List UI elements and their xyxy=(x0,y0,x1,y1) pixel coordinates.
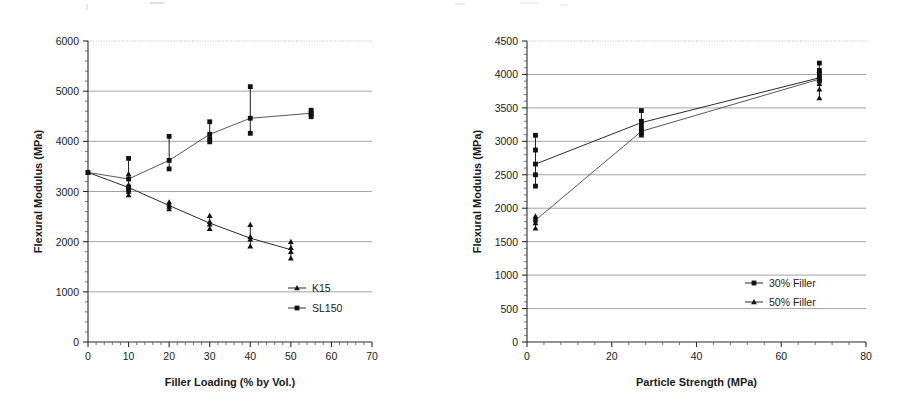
data-point-1-14 xyxy=(248,131,253,136)
data-point-1-18 xyxy=(309,114,314,119)
labels-group: 0204060800500100015002000250030003500400… xyxy=(471,35,872,388)
x-tick-label-80: 80 xyxy=(860,350,872,362)
y-axis-title: Flexural Modulus (MPa) xyxy=(471,129,483,253)
data-point-0-3 xyxy=(533,172,538,177)
y-tick-label-0: 0 xyxy=(73,336,79,348)
x-tick-label-50: 50 xyxy=(285,350,297,362)
x-axis-title: Particle Strength (MPa) xyxy=(636,376,757,388)
data-point-0-5 xyxy=(639,108,644,113)
y-axis-title: Flexural Modulus (MPa) xyxy=(32,129,44,253)
data-point-0-2 xyxy=(533,162,538,167)
legend-label-0: 30% Filler xyxy=(769,277,816,289)
data-point-1-7 xyxy=(167,167,172,172)
data-point-1-8 xyxy=(207,119,212,124)
data-point-0-10 xyxy=(207,213,213,218)
y-tick-label-4000: 4000 xyxy=(495,68,519,80)
x-tick-label-0: 0 xyxy=(524,350,530,362)
y-tick-label-2000: 2000 xyxy=(56,236,80,248)
y-tick-label-3000: 3000 xyxy=(56,186,80,198)
y-tick-label-500: 500 xyxy=(500,303,518,315)
data-point-1-12 xyxy=(248,84,253,89)
y-tick-label-1000: 1000 xyxy=(495,269,519,281)
data-point-0-17 xyxy=(247,243,253,248)
y-tick-label-0: 0 xyxy=(512,336,518,348)
data-point-0-10 xyxy=(817,61,822,66)
gridlines-group xyxy=(88,41,372,292)
y-tick-label-6000: 6000 xyxy=(56,35,80,47)
legend-label-0: K15 xyxy=(312,282,331,294)
legend-marker-square-icon xyxy=(752,281,757,286)
data-group xyxy=(533,61,823,231)
trend-line-0 xyxy=(88,172,291,249)
y-tick-label-4500: 4500 xyxy=(495,35,519,47)
x-tick-label-60: 60 xyxy=(775,350,787,362)
data-point-1-6 xyxy=(167,158,172,163)
chart-panel-right: 0204060800500100015002000250030003500400… xyxy=(450,0,900,414)
legend-label-1: 50% Filler xyxy=(769,296,816,308)
series-k15 xyxy=(85,170,294,261)
data-point-1-1 xyxy=(126,156,131,161)
series-sl150 xyxy=(86,84,314,192)
data-point-0-1 xyxy=(533,148,538,153)
figure-two-panel-charts: 0102030405060700100020003000400050006000… xyxy=(0,0,900,414)
data-point-1-4 xyxy=(533,225,539,230)
legend-label-1: SL150 xyxy=(312,302,343,314)
y-tick-label-1500: 1500 xyxy=(495,236,519,248)
data-point-1-3 xyxy=(533,220,539,225)
data-point-1-13 xyxy=(816,86,822,91)
x-tick-label-20: 20 xyxy=(163,350,175,362)
chart-panel-left: 0102030405060700100020003000400050006000… xyxy=(0,0,450,414)
trend-line-1 xyxy=(88,113,311,179)
data-point-1-2 xyxy=(126,177,131,182)
x-tick-label-0: 0 xyxy=(85,350,91,362)
y-tick-label-4000: 4000 xyxy=(56,135,80,147)
x-tick-label-10: 10 xyxy=(123,350,135,362)
data-point-1-4 xyxy=(126,187,131,192)
x-tick-label-40: 40 xyxy=(691,350,703,362)
labels-group: 0102030405060700100020003000400050006000… xyxy=(32,35,378,388)
legend-marker-square-icon xyxy=(295,306,300,311)
data-point-0-0 xyxy=(533,133,538,138)
x-tick-label-70: 70 xyxy=(366,350,378,362)
data-point-0-13 xyxy=(207,226,213,231)
x-axis-title: Filler Loading (% by Vol.) xyxy=(165,376,296,388)
data-point-0-14 xyxy=(247,222,253,227)
x-tick-label-60: 60 xyxy=(326,350,338,362)
data-point-0-4 xyxy=(533,184,538,189)
flexural-modulus-vs-particle-strength-chart: 0204060800500100015002000250030003500400… xyxy=(450,0,900,414)
series-30-filler xyxy=(533,61,822,189)
y-tick-label-2500: 2500 xyxy=(495,169,519,181)
x-tick-label-40: 40 xyxy=(244,350,256,362)
y-tick-label-5000: 5000 xyxy=(56,85,80,97)
data-point-1-11 xyxy=(207,139,212,144)
y-tick-label-3000: 3000 xyxy=(495,135,519,147)
data-point-1-0 xyxy=(86,170,91,175)
flexural-modulus-vs-filler-loading-chart: 0102030405060700100020003000400050006000… xyxy=(0,0,450,414)
trend-line-1 xyxy=(535,79,819,220)
data-point-1-5 xyxy=(167,134,172,139)
data-point-1-14 xyxy=(816,95,822,100)
gridlines-group xyxy=(527,41,866,309)
x-tick-label-30: 30 xyxy=(204,350,216,362)
x-tick-label-20: 20 xyxy=(606,350,618,362)
data-point-0-21 xyxy=(288,255,294,260)
series-50-filler xyxy=(533,68,823,231)
y-tick-label-3500: 3500 xyxy=(495,102,519,114)
y-tick-label-1000: 1000 xyxy=(56,286,80,298)
data-point-1-13 xyxy=(248,116,253,121)
legend-group: K15SL150 xyxy=(288,282,343,314)
y-tick-label-2000: 2000 xyxy=(495,202,519,214)
legend-group: 30% Filler50% Filler xyxy=(745,277,816,308)
data-group xyxy=(85,84,313,260)
data-point-1-9 xyxy=(207,132,212,137)
